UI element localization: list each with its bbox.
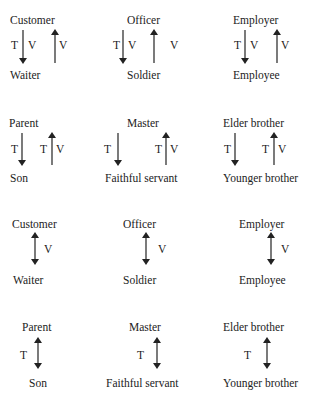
up-arrow-label: V [170, 143, 178, 156]
up-arrow-label: V [56, 143, 64, 156]
node-bottom-label: Waiter [10, 69, 40, 82]
node-top-label: Parent [22, 321, 51, 334]
node-bottom-label: Son [10, 172, 28, 185]
up-arrow-label: V [59, 39, 67, 52]
node-bottom-label: Younger brother [223, 172, 298, 185]
down-arrow-label: T [104, 143, 111, 156]
node-bottom-label: Employee [233, 69, 280, 82]
node-bottom-label: Younger brother [223, 377, 298, 390]
node-bottom-label: Employee [239, 274, 286, 287]
arrows-layer [0, 0, 310, 400]
down-arrow-label: T [11, 143, 18, 156]
node-bottom-label: Soldier [127, 69, 160, 82]
node-top-label: Elder brother [223, 321, 284, 334]
double-arrow-label: T [244, 349, 251, 362]
node-top-label: Customer [12, 218, 57, 231]
node-bottom-label: Soldier [123, 274, 156, 287]
up-arrow-label: T [40, 143, 47, 156]
node-top-label: Elder brother [223, 117, 284, 130]
down-arrow-label: V [250, 39, 258, 52]
double-arrow-label: T [20, 349, 27, 362]
row2-pair1-arrows [22, 133, 52, 165]
node-top-label: Officer [127, 14, 160, 27]
down-arrow-label: V [128, 39, 136, 52]
node-top-label: Officer [123, 218, 156, 231]
node-bottom-label: Faithful servant [106, 377, 179, 390]
node-top-label: Master [129, 321, 161, 334]
down-arrow-label: T [113, 39, 120, 52]
double-arrow-label: V [281, 243, 289, 256]
double-arrow-label: V [158, 243, 166, 256]
node-top-label: Master [127, 117, 159, 130]
node-top-label: Employer [233, 14, 278, 27]
node-top-label: Employer [239, 218, 284, 231]
up-arrow-label: V [278, 143, 286, 156]
double-arrow-label: V [44, 243, 52, 256]
node-top-label: Parent [9, 117, 38, 130]
up-arrow-label: T [262, 143, 269, 156]
up-arrow-label: V [281, 39, 289, 52]
down-arrow-label: T [234, 39, 241, 52]
node-bottom-label: Waiter [13, 274, 43, 287]
down-arrow-label: T [224, 143, 231, 156]
node-bottom-label: Faithful servant [105, 172, 178, 185]
down-arrow-label: V [28, 39, 36, 52]
up-arrow-label: T [155, 143, 162, 156]
double-arrow-label: T [137, 349, 144, 362]
up-arrow-label: V [170, 39, 178, 52]
node-top-label: Customer [10, 14, 55, 27]
node-bottom-label: Son [29, 377, 47, 390]
down-arrow-label: T [11, 39, 18, 52]
